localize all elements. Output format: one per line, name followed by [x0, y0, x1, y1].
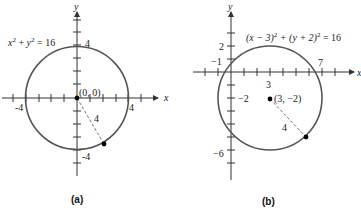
radius-label-a: 4 — [94, 113, 99, 124]
tick-label-y-top-a: 4 — [85, 38, 90, 49]
x-axis-label-a: x — [163, 92, 169, 103]
tick-label-x-right-a: 4 — [129, 102, 134, 113]
equation-b: (x − 3)2 + (y + 2)2 = 16 — [246, 31, 341, 44]
x-axis-label-b: x — [356, 67, 361, 78]
center-label-a: (0, 0) — [79, 87, 101, 99]
circle-point-a — [102, 142, 107, 147]
center-label-b: (3, −2) — [274, 93, 301, 105]
tick-label-x-left-a: -4 — [15, 102, 23, 113]
tick-label-x-neg1-b: −1 — [211, 56, 222, 67]
tick-label-x-7-b: 7 — [318, 57, 323, 68]
panel-a: y x x2 + y2 = 16 4 4 -4 -4 (0, 0) 4 (a) — [2, 1, 169, 205]
tick-label-x-3-b: 3 — [266, 79, 271, 90]
circle-point-b — [304, 135, 309, 140]
equation-a: x2 + y2 = 16 — [7, 36, 55, 48]
radius-line-a — [77, 98, 104, 144]
y-axis-label-b: y — [227, 1, 233, 12]
caption-b: (b) — [262, 196, 275, 207]
radius-label-b: 4 — [282, 122, 287, 133]
tick-label-y-neg6-b: −6 — [213, 148, 224, 159]
circle-diagrams: y x x2 + y2 = 16 4 4 -4 -4 (0, 0) 4 (a) — [0, 0, 361, 214]
y-axis-label-a: y — [73, 1, 79, 12]
panel-b: y x (x − 3)2 + (y + 2)2 = 16 2 −1 7 3 −2… — [193, 1, 361, 207]
caption-a: (a) — [71, 194, 83, 205]
tick-label-y-bottom-a: -4 — [82, 151, 90, 162]
tick-label-y-neg2-b: −2 — [238, 93, 249, 104]
tick-label-y-2-b: 2 — [219, 41, 224, 52]
center-point-b — [268, 97, 273, 102]
radius-line-b — [270, 99, 306, 137]
